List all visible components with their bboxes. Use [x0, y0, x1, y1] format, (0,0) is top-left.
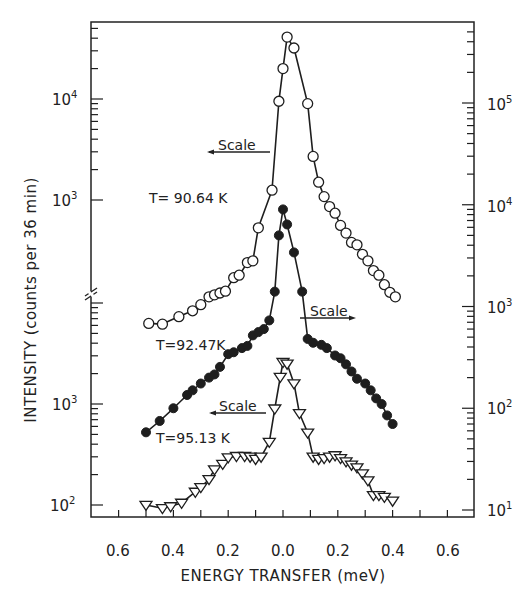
- triangle-down-marker: [362, 477, 374, 486]
- open-circle-marker: [289, 43, 299, 53]
- x-tick-label: 0.4: [161, 542, 185, 560]
- arrow-right-icon: [349, 316, 356, 321]
- x-tick-label: 0.4: [381, 542, 405, 560]
- filled-circle-marker: [274, 231, 283, 240]
- open-circle-marker: [352, 240, 362, 250]
- open-circle-marker: [274, 96, 284, 106]
- open-circle-marker: [253, 223, 263, 233]
- open-circle-marker: [196, 300, 206, 310]
- filled-circle-marker: [169, 404, 178, 413]
- triangle-down-marker: [263, 438, 275, 447]
- open-circle-marker: [282, 32, 292, 42]
- y-axis-title: INTENSITY (counts per 36 min): [22, 177, 40, 422]
- open-circle-marker: [308, 151, 318, 161]
- y-tick-label: 104: [52, 89, 77, 109]
- triangle-down-marker: [288, 380, 300, 389]
- y-tick-label: 105: [487, 94, 512, 114]
- filled-circle-marker: [283, 220, 292, 229]
- triangle-down-marker: [302, 429, 314, 438]
- open-circle-marker: [278, 64, 288, 74]
- open-circle-marker: [174, 312, 184, 322]
- left-axis-labels: 104 103 103 102: [50, 89, 77, 515]
- filled-circle-marker: [298, 287, 307, 296]
- temperature-label-90k: T= 90.64 K: [148, 190, 228, 206]
- triangle-down-marker: [274, 373, 286, 382]
- filled-circle-marker: [265, 316, 274, 325]
- filled-circle-marker: [352, 374, 361, 383]
- filled-circle-marker: [270, 287, 279, 296]
- open-circle-marker: [234, 270, 244, 280]
- y-tick-label: 103: [52, 190, 77, 210]
- triangle-down-marker: [293, 410, 305, 419]
- open-circle-marker: [314, 177, 324, 187]
- filled-circle-marker: [142, 428, 151, 437]
- scale-label: Scale: [218, 137, 256, 153]
- open-circle-marker: [303, 99, 313, 109]
- open-circle-marker: [144, 318, 154, 328]
- filled-circle-marker: [155, 416, 164, 425]
- open-circle-marker: [390, 292, 400, 302]
- x-tick-labels: 0.6 0.4 0.2 0.0 0.2 0.4 0.6: [106, 542, 460, 560]
- temperature-label-95k: T=95.13 K: [155, 430, 231, 446]
- open-circle-marker: [330, 208, 340, 218]
- y-tick-label: 102: [487, 398, 512, 418]
- filled-circle-marker: [259, 325, 268, 334]
- filled-circle-marker: [229, 348, 238, 357]
- filled-circle-marker: [377, 400, 386, 409]
- filled-circle-marker: [215, 362, 224, 371]
- x-tick-label: 0.0: [271, 542, 295, 560]
- filled-circle-marker: [279, 205, 288, 214]
- y-tick-label: 103: [487, 297, 512, 317]
- filled-circle-marker: [188, 386, 197, 395]
- series-t-90-64-k: [144, 32, 401, 329]
- open-circle-marker: [220, 286, 230, 296]
- scale-label: Scale: [219, 398, 257, 414]
- triangle-down-marker: [387, 497, 399, 506]
- filled-circle-marker: [196, 379, 205, 388]
- x-tick-label: 0.6: [106, 542, 130, 560]
- y-tick-label: 101: [487, 500, 512, 520]
- filled-circle-marker: [322, 344, 331, 353]
- filled-circle-marker: [388, 420, 397, 429]
- y-tick-label: 102: [50, 495, 75, 515]
- open-circle-marker: [267, 185, 277, 195]
- open-circle-marker: [157, 319, 167, 329]
- scale-arrow-95k: Scale: [209, 398, 266, 416]
- open-circle-marker: [363, 256, 373, 266]
- open-circle-marker: [341, 228, 351, 238]
- open-circle-marker: [319, 192, 329, 202]
- right-axis-labels: 105 104 103 102 101: [487, 94, 512, 520]
- chart-figure: 0.6 0.4 0.2 0.0 0.2 0.4 0.6 104 103 103 …: [0, 0, 531, 590]
- y-tick-label: 104: [487, 196, 512, 216]
- plot-frame: [91, 22, 474, 517]
- filled-circle-marker: [243, 341, 252, 350]
- filled-circle-marker: [309, 338, 318, 347]
- x-tick-label: 0.2: [326, 542, 350, 560]
- y-tick-label: 103: [52, 394, 77, 414]
- filled-circle-marker: [289, 248, 298, 257]
- filled-circle-marker: [366, 386, 375, 395]
- filled-circle-marker: [383, 411, 392, 420]
- scale-label: Scale: [310, 303, 348, 319]
- triangle-down-marker: [209, 466, 221, 475]
- temperature-label-92k: T=92.47K: [155, 337, 226, 353]
- x-axis-title: ENERGY TRANSFER (meV): [181, 567, 386, 585]
- x-tick-label: 0.2: [216, 542, 240, 560]
- arrow-left-icon: [209, 411, 216, 416]
- x-tick-label: 0.6: [436, 542, 460, 560]
- arrow-left-icon: [207, 150, 214, 155]
- scale-arrow-92k: Scale: [300, 303, 356, 321]
- scale-arrow-90k: Scale: [207, 137, 270, 155]
- open-circle-marker: [248, 256, 258, 266]
- triangle-down-marker: [269, 405, 281, 414]
- open-circle-marker: [374, 270, 384, 280]
